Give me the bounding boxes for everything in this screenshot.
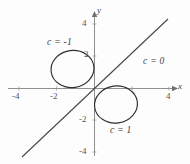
y-tick-label-neg4: -4 [79, 147, 87, 156]
y-axis-label: y [97, 6, 101, 15]
x-tick-label-neg2: -2 [50, 92, 58, 101]
curve-label-c-1: c = 1 [110, 126, 132, 136]
x-tick-label-pos4: 4 [166, 92, 171, 101]
y-tick-label-pos4: 4 [82, 19, 87, 28]
plot-canvas [0, 0, 190, 164]
curve-c-equals-1 [92, 83, 140, 126]
x-axis-label: x [178, 82, 182, 91]
level-curve-figure: x y -4 -2 4 4 2 -2 -4 c = -1 c = 0 c = 1 [0, 0, 190, 164]
y-tick-label-pos2: 2 [84, 50, 89, 59]
curve-label-c-0: c = 0 [143, 57, 165, 67]
curve-c-equals-negative-1 [49, 48, 97, 91]
curve-label-c-negative-1: c = -1 [47, 38, 72, 48]
y-tick-label-neg2: -2 [79, 115, 87, 124]
x-tick-label-neg4: -4 [12, 92, 20, 101]
